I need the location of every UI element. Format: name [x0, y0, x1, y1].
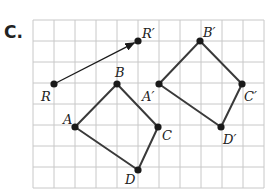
coordinate-grid	[33, 20, 264, 188]
point-c	[154, 123, 161, 130]
point-a	[71, 123, 78, 130]
label-a: A	[62, 112, 72, 127]
diagram-canvas: C. RR′ABCDA′B′C′D′	[0, 0, 268, 196]
label-r-prime: R′	[141, 26, 155, 41]
label-r: R	[40, 89, 51, 104]
point-b	[113, 80, 120, 87]
label-d: D	[124, 172, 136, 187]
part-label: C.	[4, 22, 23, 42]
point-c-prime	[238, 80, 245, 87]
label-d-prime: D′	[222, 132, 236, 147]
label-b: B	[114, 65, 125, 80]
point-a-prime	[155, 80, 162, 87]
label-b-prime: B′	[202, 25, 216, 40]
label-c-prime: C′	[244, 89, 257, 104]
point-d	[134, 166, 141, 173]
point-d-prime	[217, 123, 224, 130]
label-c: C	[162, 128, 172, 143]
point-labels: RR′ABCDA′B′C′D′	[40, 25, 257, 187]
translation-diagram: C. RR′ABCDA′B′C′D′	[0, 0, 268, 196]
label-a-prime: A′	[141, 89, 154, 104]
point-r-prime	[134, 37, 141, 44]
point-r	[50, 80, 57, 87]
